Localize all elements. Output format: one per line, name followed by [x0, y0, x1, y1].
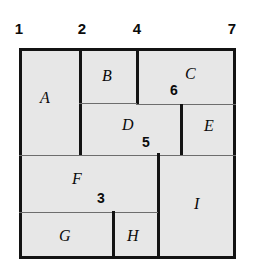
region-label-h: H	[127, 228, 139, 244]
region-label-g: G	[59, 228, 71, 244]
divider-b-bottom-edge	[79, 103, 137, 104]
vertex-label-3: 3	[97, 191, 105, 205]
region-label-d: D	[122, 117, 134, 133]
divider-a-right-edge	[79, 48, 82, 155]
vertex-label-5: 5	[142, 135, 150, 149]
divider-f-bottom-edge	[19, 212, 158, 213]
divider-b-right-edge	[136, 48, 139, 105]
ruler-label-2: 2	[73, 21, 91, 36]
divider-f-right-edge	[157, 153, 160, 259]
region-label-f: F	[72, 171, 82, 187]
region-label-e: E	[204, 118, 214, 134]
region-label-b: B	[102, 68, 112, 84]
divider-g-right-edge	[112, 211, 115, 259]
vertex-label-6: 6	[170, 83, 178, 97]
ruler-label-4: 4	[128, 21, 146, 36]
region-label-a: A	[40, 90, 50, 106]
region-f	[22, 157, 156, 212]
divider-c-bottom-edge	[136, 104, 236, 105]
ruler-label-1: 1	[10, 21, 28, 36]
rectangle-partition-figure: 1247 ABCDEFGHI 653	[0, 0, 255, 273]
region-a	[22, 51, 80, 155]
region-label-i: I	[194, 196, 199, 212]
divider-d-bottom-edge	[19, 155, 236, 156]
divider-d-right-edge	[180, 104, 183, 156]
ruler-label-7: 7	[223, 21, 241, 36]
region-label-c: C	[185, 66, 196, 82]
